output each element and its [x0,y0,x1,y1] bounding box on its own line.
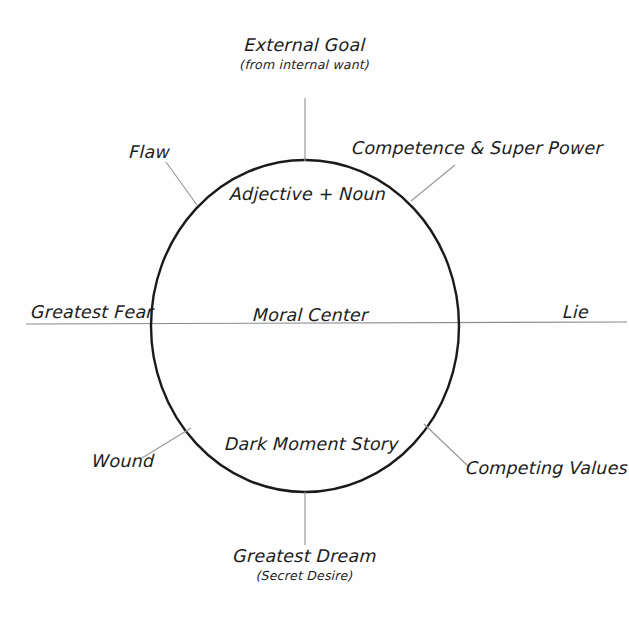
wound-title: Wound [91,452,154,472]
outer-label-external-goal: External Goal (from internal want) [180,36,430,72]
competing-values-title: Competing Values [465,459,628,479]
outer-label-wound: Wound [92,452,154,472]
outer-label-competence-super-power: Competence & Super Power [352,139,603,159]
outer-label-greatest-fear: Greatest Fear [31,303,154,323]
inner-label-dark-moment-story: Dark Moment Story [224,434,399,454]
lie-title: Lie [562,303,589,323]
connector-competence [411,165,455,201]
external-goal-title: External Goal [179,36,430,56]
outer-label-flaw: Flaw [70,143,170,163]
connector-flaw [166,162,197,205]
inner-label-adjective-noun: Adjective + Noun [229,184,386,204]
outer-label-competing-values: Competing Values [466,459,628,479]
greatest-dream-title: Greatest Dream [189,547,420,567]
competence-super-power-title: Competence & Super Power [351,139,603,159]
outer-label-greatest-dream: Greatest Dream (Secret Desire) [190,547,420,583]
greatest-dream-subtitle: (Secret Desire) [190,569,421,583]
flaw-title: Flaw [69,143,170,163]
outer-label-lie: Lie [563,303,589,323]
greatest-fear-title: Greatest Fear [30,303,154,323]
inner-label-moral-center: Moral Center [252,305,369,325]
external-goal-subtitle: (from internal want) [180,58,431,72]
connector-competing-values [424,424,468,466]
